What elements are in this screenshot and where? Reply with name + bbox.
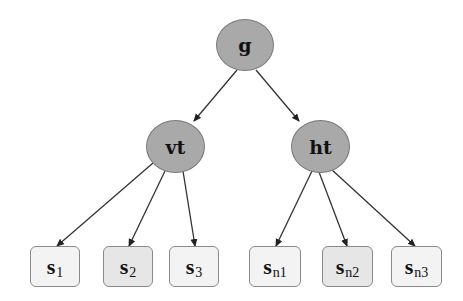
edge-vt-s3 — [183, 171, 195, 246]
leaf-s1-main: s — [47, 254, 56, 280]
edge-vt-s1 — [57, 163, 153, 246]
node-vt-label: vt — [166, 136, 186, 158]
leaf-s1-sub: 1 — [56, 265, 63, 281]
leaf-sn2: sn2 — [322, 246, 373, 287]
node-ht: ht — [291, 120, 350, 173]
leaf-sn1: sn1 — [249, 246, 301, 287]
edge-g-ht — [256, 70, 299, 121]
edge-ht-sn2 — [319, 172, 347, 246]
edge-ht-sn3 — [331, 169, 415, 246]
leaf-sn2-sub: n2 — [345, 265, 359, 281]
leaf-s2-main: s — [120, 254, 129, 280]
edge-vt-s2 — [129, 171, 165, 246]
leaf-s3-main: s — [186, 254, 195, 280]
leaf-sn2-main: s — [336, 254, 345, 280]
edge-ht-sn1 — [276, 171, 312, 246]
node-ht-label: ht — [309, 136, 332, 158]
node-vt: vt — [146, 120, 205, 173]
leaf-sn3-main: s — [405, 254, 414, 280]
edge-g-vt — [194, 70, 237, 121]
leaf-s3-sub: 3 — [195, 265, 202, 281]
leaf-sn1-main: s — [263, 254, 272, 280]
leaf-s2-sub: 2 — [129, 265, 136, 281]
node-g: g — [216, 19, 274, 71]
node-g-label: g — [238, 34, 251, 56]
leaf-s2: s2 — [103, 246, 153, 287]
leaf-sn3: sn3 — [391, 246, 442, 287]
leaf-s1: s1 — [30, 246, 80, 287]
leaf-s3: s3 — [169, 246, 219, 287]
leaf-sn1-sub: n1 — [273, 265, 287, 281]
leaf-sn3-sub: n3 — [414, 265, 428, 281]
